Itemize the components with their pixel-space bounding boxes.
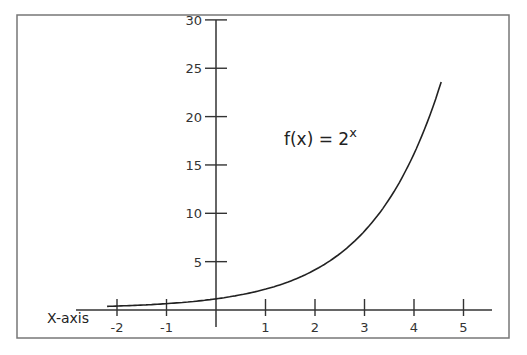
x-tick-label: 3 bbox=[360, 320, 368, 335]
function-label-base: f(x) = 2 bbox=[284, 129, 349, 149]
function-label: f(x) = 2x bbox=[284, 125, 357, 149]
x-tick-label: -2 bbox=[111, 320, 124, 335]
y-tick-label: 25 bbox=[185, 61, 202, 76]
x-tick-label: 4 bbox=[410, 320, 418, 335]
x-axis-label: X-axis bbox=[47, 310, 89, 326]
y-tick-label: 10 bbox=[185, 206, 202, 221]
y-tick-label: 5 bbox=[194, 255, 202, 270]
exponential-chart: 51015202530 -2-112345 X-axis f(x) = 2x bbox=[0, 0, 527, 355]
y-tick-label: 15 bbox=[185, 158, 202, 173]
x-tick-label: 2 bbox=[311, 320, 319, 335]
function-label-exponent: x bbox=[349, 125, 357, 140]
y-tick-label: 30 bbox=[185, 13, 202, 28]
x-tick-label: 1 bbox=[261, 320, 269, 335]
x-tick-label: -1 bbox=[160, 320, 173, 335]
y-tick-label: 20 bbox=[185, 110, 202, 125]
x-tick-label: 5 bbox=[459, 320, 467, 335]
